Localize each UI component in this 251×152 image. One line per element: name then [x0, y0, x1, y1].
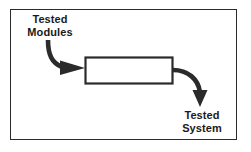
label-tested-system: Tested System: [170, 109, 234, 135]
label-tested-modules-line2: Modules: [18, 26, 82, 39]
output-arrow: [173, 70, 208, 107]
input-arrow: [48, 40, 85, 75]
label-tested-modules: Tested Modules: [18, 13, 82, 39]
figure-root: Tested Modules Tested System: [0, 0, 251, 152]
label-tested-system-line1: Tested: [170, 109, 234, 122]
label-tested-modules-line1: Tested: [18, 13, 82, 26]
process-box: [86, 58, 173, 84]
label-tested-system-line2: System: [170, 122, 234, 135]
